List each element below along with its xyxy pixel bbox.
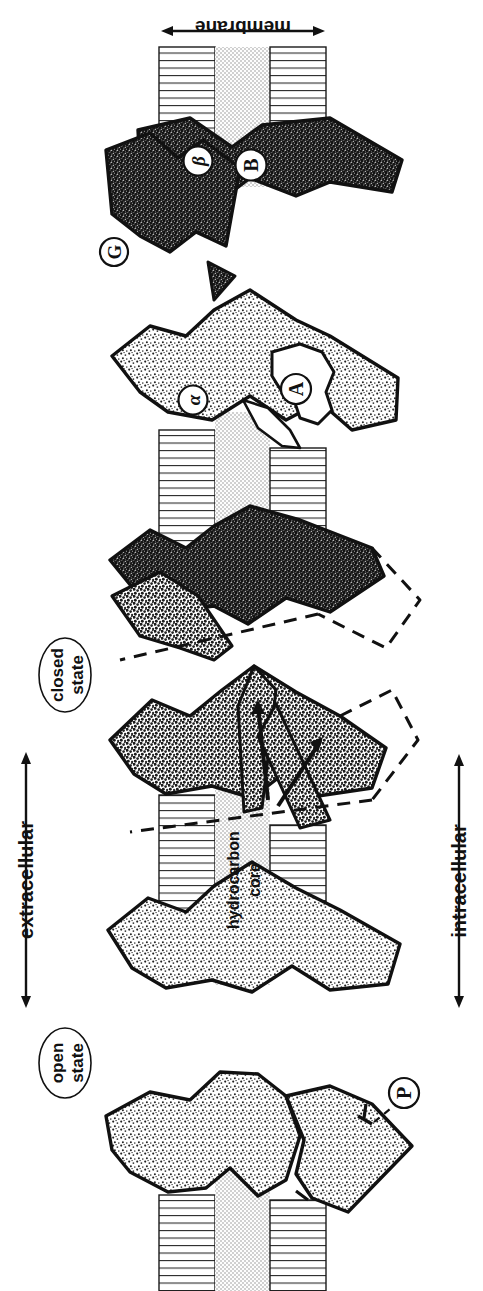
callout-B[interactable]: B [236,150,267,181]
headgroup-leaflet-intracellular [270,1200,326,1291]
membrane-channel-diagram: β B G α A P closed state open st [0,0,483,1291]
state-label-open-line1: open [48,1043,67,1084]
intracellular-label-text: intracellular [448,824,470,938]
hydrocarbon-core-label-line1: hydrocarbon [225,831,242,929]
callout-P-text: P [393,1087,415,1099]
callout-G[interactable]: G [100,238,128,266]
callout-A-text: A [285,381,307,396]
callout-beta[interactable]: β [184,147,213,176]
state-label-closed-line2: state [68,655,87,695]
callout-G-text: G [104,244,125,259]
hydrocarbon-core-label-line2: core [246,863,263,897]
headgroup-leaflet-extracellular [159,1195,215,1291]
state-label-closed-line1: closed [48,648,67,702]
state-bubble-open[interactable]: open state [39,1028,91,1098]
callout-alpha[interactable]: α [179,386,208,415]
callout-alpha-text: α [183,394,204,405]
callout-B-text: B [240,158,262,171]
state-label-open-line2: state [68,1043,87,1083]
extracellular-label-text: extracellular [15,821,37,939]
callout-beta-text: β [188,156,209,167]
callout-A[interactable]: A [281,374,311,404]
membrane-label-text: membrane [195,17,291,38]
callout-P[interactable]: P [389,1078,419,1108]
state-bubble-closed[interactable]: closed state [39,638,91,712]
figure-canvas: β B G α A P closed state open st [0,0,483,1291]
